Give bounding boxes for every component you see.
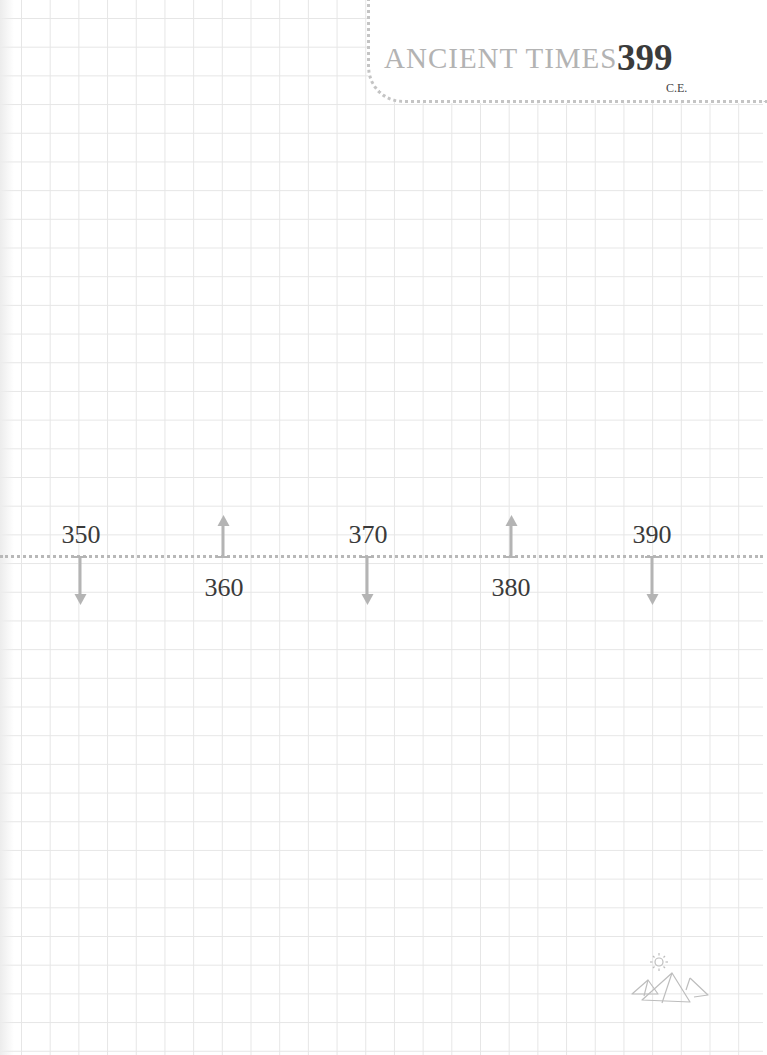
arrow-down-icon [79,557,82,595]
page-title: ANCIENT TIMES [384,42,617,75]
pyramids-with-sun-icon [628,950,712,1006]
tick-label-390: 390 [633,522,672,548]
tick-label-380: 380 [492,575,531,601]
arrow-up-icon [510,525,513,556]
arrow-foot [216,556,230,558]
arrow-down-icon [366,557,369,595]
tick-label-350: 350 [62,522,101,548]
arrow-foot [645,556,659,558]
era-label: C.E. [666,81,687,96]
arrow-down-icon [651,557,654,595]
arrow-foot [360,556,374,558]
tick-label-360: 360 [205,575,244,601]
year-number: 399 [617,36,673,79]
page-edge-shadow [0,0,14,1055]
tick-label-370: 370 [349,522,388,548]
arrow-foot [504,556,518,558]
arrow-up-icon [222,525,225,556]
arrow-foot [73,556,87,558]
